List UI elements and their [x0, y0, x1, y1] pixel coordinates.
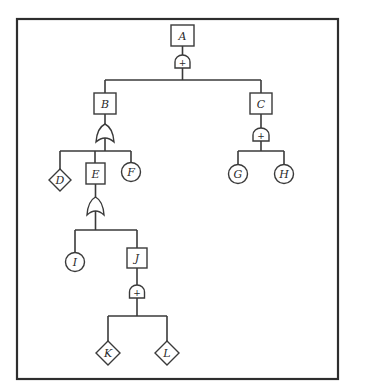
label-d: D	[55, 174, 65, 187]
fault-tree-diagram: A + B D E F I	[0, 0, 365, 392]
node-j: J	[127, 248, 147, 268]
and-gate-symbol: +	[133, 288, 141, 298]
node-i: I	[66, 253, 85, 272]
node-d: D	[49, 169, 71, 191]
node-f: F	[122, 163, 141, 182]
and-gate-j: +	[130, 285, 145, 298]
node-a: A	[171, 25, 194, 46]
label-e: E	[90, 168, 99, 181]
node-k: K	[96, 341, 120, 365]
node-e: E	[86, 163, 105, 184]
node-l: L	[155, 341, 179, 365]
label-g: G	[234, 168, 243, 181]
label-a: A	[178, 30, 187, 43]
node-c: C	[250, 93, 272, 114]
label-f: F	[126, 166, 135, 179]
and-gate-symbol: +	[257, 131, 265, 141]
and-gate-a: +	[175, 55, 190, 68]
and-gate-symbol: +	[179, 58, 187, 68]
node-g: G	[229, 165, 248, 184]
label-h: H	[278, 168, 289, 181]
and-gate-c: +	[253, 128, 269, 141]
node-h: H	[275, 165, 294, 184]
label-c: C	[257, 98, 266, 111]
diagram-frame	[17, 19, 338, 379]
label-l: L	[162, 347, 170, 360]
label-j: J	[133, 252, 140, 265]
label-b: B	[100, 98, 109, 111]
label-k: K	[103, 347, 113, 360]
node-b: B	[94, 93, 116, 114]
label-i: I	[72, 256, 78, 269]
